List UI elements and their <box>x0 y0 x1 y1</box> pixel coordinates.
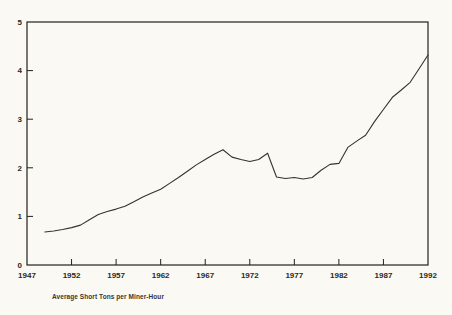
y-axis-tick-label: 5 <box>18 18 23 27</box>
chart-page: 0123451947195219571962196719721977198219… <box>0 0 452 315</box>
x-axis-tick-label: 1962 <box>152 271 170 280</box>
productivity-line <box>45 55 428 232</box>
x-axis-tick-label: 1947 <box>18 271 36 280</box>
axis-labels: 0123451947195219571962196719721977198219… <box>18 18 438 280</box>
x-axis-tick-label: 1967 <box>196 271 214 280</box>
productivity-line-chart: 0123451947195219571962196719721977198219… <box>0 0 452 315</box>
y-axis-tick-label: 2 <box>18 164 23 173</box>
x-axis-tick-label: 1972 <box>241 271 259 280</box>
chart-caption: Average Short Tons per Miner-Hour <box>52 292 164 301</box>
y-axis-tick-label: 4 <box>18 66 23 75</box>
axis-ticks <box>27 71 383 265</box>
y-axis-tick-label: 1 <box>18 212 23 221</box>
y-axis-tick-label: 0 <box>18 261 23 270</box>
x-axis-tick-label: 1977 <box>285 271 303 280</box>
x-axis-tick-label: 1992 <box>419 271 437 280</box>
y-axis-tick-label: 3 <box>18 115 23 124</box>
x-axis-tick-label: 1957 <box>107 271 125 280</box>
plot-frame <box>27 22 428 265</box>
x-axis-tick-label: 1982 <box>330 271 348 280</box>
x-axis-tick-label: 1987 <box>375 271 393 280</box>
x-axis-tick-label: 1952 <box>63 271 81 280</box>
